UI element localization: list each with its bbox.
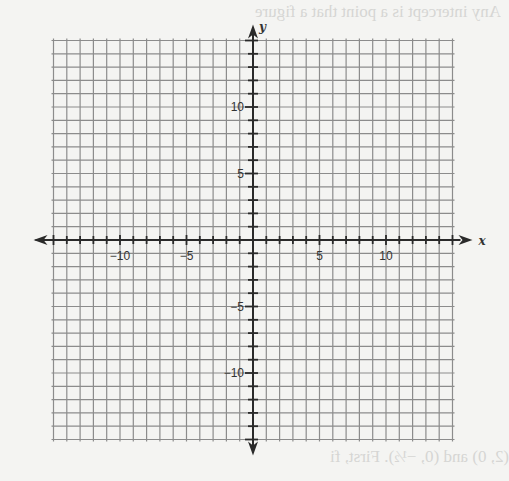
x-axis-right-arrow-icon [459,235,473,245]
y-tick-label: 10 [231,100,245,114]
y-tick-label: −5 [230,300,244,314]
x-tick-label: 10 [379,249,393,263]
x-axis-label: x [478,234,487,248]
y-tick-label: −10 [224,366,245,380]
y-tick-label: 5 [237,167,244,181]
x-tick-label: −10 [110,249,131,263]
y-axis-label: y [258,20,267,34]
x-tick-label: −5 [180,249,194,263]
x-tick-label: 5 [316,249,323,263]
axes [34,25,473,456]
